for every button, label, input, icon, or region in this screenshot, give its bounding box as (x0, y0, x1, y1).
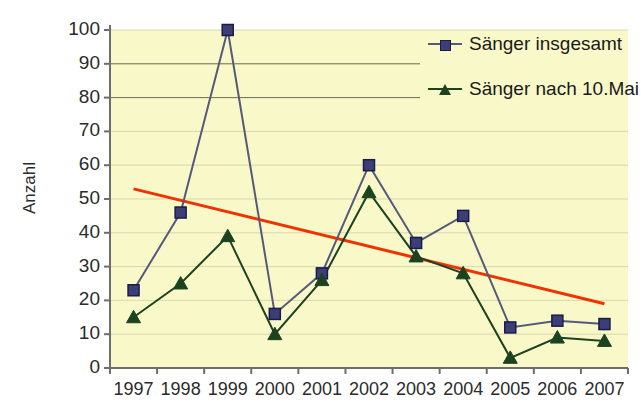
data-point-marker (505, 322, 516, 333)
data-point-marker (599, 319, 610, 330)
legend-item-saenger-nach-10-mai[interactable]: Sänger nach 10.Mai (428, 78, 639, 100)
triangle-marker-icon (428, 82, 462, 96)
data-point-marker (364, 160, 375, 171)
data-point-marker (269, 308, 280, 319)
plot-canvas (0, 0, 641, 415)
legend-label: Sänger insgesamt (469, 33, 622, 55)
data-point-marker (458, 210, 469, 221)
legend-item-saenger-insgesamt[interactable]: Sänger insgesamt (428, 33, 622, 55)
square-marker-icon (428, 37, 462, 51)
data-point-marker (222, 25, 233, 36)
line-chart: Anzahl 1009080706050403020100 1997199819… (0, 0, 641, 415)
data-point-marker (411, 237, 422, 248)
data-point-marker (175, 207, 186, 218)
data-point-marker (552, 315, 563, 326)
data-point-marker (128, 285, 139, 296)
legend-label: Sänger nach 10.Mai (469, 78, 639, 100)
